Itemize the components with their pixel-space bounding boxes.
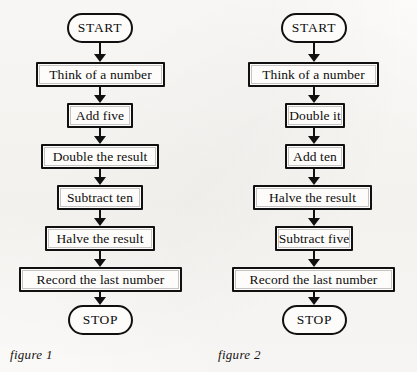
flow-node-label: START — [292, 21, 336, 35]
arrow-head-icon — [308, 297, 320, 305]
flow-arrow — [93, 210, 107, 226]
flow-node-label: START — [78, 21, 122, 35]
flow-arrow — [307, 251, 321, 267]
figure-1: START Think of a number Add five Double … — [0, 0, 210, 372]
flow-node-subtract-five: Subtract five — [275, 226, 353, 251]
flow-arrow — [307, 43, 321, 62]
arrow-head-icon — [94, 218, 106, 226]
flow-node-label: Halve the result — [269, 191, 356, 205]
arrow-head-icon — [94, 54, 106, 62]
flow-arrow — [93, 169, 107, 185]
flow-arrow — [307, 210, 321, 226]
arrow-head-icon — [308, 177, 320, 185]
flow-node-label: Think of a number — [49, 68, 152, 82]
flow-node-think-of-a-number: Think of a number — [248, 62, 379, 87]
arrow-head-icon — [308, 95, 320, 103]
flow-node-stop: STOP — [68, 305, 133, 335]
arrow-head-icon — [94, 95, 106, 103]
flow-node-label: Halve the result — [56, 232, 143, 246]
flow-node-label: Double it — [289, 109, 341, 123]
flow-arrow — [93, 128, 107, 144]
arrow-head-icon — [94, 136, 106, 144]
flow-node-halve-the-result: Halve the result — [253, 185, 372, 210]
flow-arrow — [307, 87, 321, 103]
flowchart-figure-2: START Think of a number Double it Add te… — [207, 0, 417, 345]
flow-arrow — [307, 128, 321, 144]
flow-node-think-of-a-number: Think of a number — [36, 62, 165, 87]
flow-node-double-the-result: Double the result — [41, 144, 159, 169]
flow-arrow — [307, 169, 321, 185]
flow-node-label: Think of a number — [262, 68, 365, 82]
flow-node-label: Add five — [76, 109, 124, 123]
flow-node-add-five: Add five — [67, 103, 133, 128]
flow-node-label: Double the result — [53, 150, 148, 164]
flow-node-label: Subtract ten — [67, 191, 133, 205]
arrow-head-icon — [308, 218, 320, 226]
flow-node-start: START — [67, 13, 133, 43]
arrow-head-icon — [308, 136, 320, 144]
arrow-head-icon — [94, 259, 106, 267]
flow-node-record-the-last-number: Record the last number — [19, 267, 182, 292]
flow-node-add-ten: Add ten — [285, 144, 345, 169]
flow-node-start: START — [281, 13, 347, 43]
figure-1-caption: figure 1 — [10, 347, 53, 363]
flow-node-label: STOP — [297, 313, 333, 327]
figure-2-caption: figure 2 — [218, 347, 261, 363]
arrow-head-icon — [308, 259, 320, 267]
flow-arrow — [307, 292, 321, 305]
flow-arrow — [93, 251, 107, 267]
figure-2: START Think of a number Double it Add te… — [207, 0, 417, 372]
flow-node-label: Record the last number — [250, 273, 378, 287]
arrow-head-icon — [94, 297, 106, 305]
arrow-head-icon — [308, 54, 320, 62]
flow-node-label: Add ten — [293, 150, 337, 164]
flow-node-label: Record the last number — [37, 273, 165, 287]
flow-node-stop: STOP — [282, 305, 347, 335]
flow-node-label: STOP — [83, 313, 119, 327]
flow-node-record-the-last-number: Record the last number — [232, 267, 395, 292]
flow-arrow — [93, 43, 107, 62]
flow-node-halve-the-result: Halve the result — [45, 226, 155, 251]
flow-node-subtract-ten: Subtract ten — [57, 185, 143, 210]
flowchart-figure-1: START Think of a number Add five Double … — [0, 0, 210, 345]
flow-node-double-it: Double it — [285, 103, 345, 128]
flow-node-label: Subtract five — [279, 232, 350, 246]
arrow-shaft — [99, 43, 102, 55]
flow-arrow — [93, 87, 107, 103]
arrow-shaft — [313, 43, 316, 55]
flow-arrow — [93, 292, 107, 305]
arrow-head-icon — [94, 177, 106, 185]
